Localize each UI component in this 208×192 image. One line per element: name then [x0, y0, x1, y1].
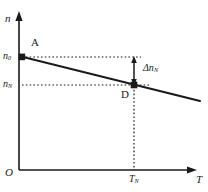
point-marker-A: [19, 54, 26, 61]
figure-canvas: n T O n0 nN TN A D ΔnN: [0, 0, 208, 192]
delta-nN-label-base: Δn: [143, 62, 154, 73]
y-axis: [15, 11, 22, 170]
y-tick-label-n0-sub: 0: [8, 54, 11, 61]
point-marker-D: [131, 82, 138, 89]
point-label-A: A: [31, 37, 39, 48]
x-axis-name: T: [196, 174, 202, 185]
y-tick-label-nN: nN: [3, 79, 12, 90]
point-label-D: D: [121, 89, 129, 100]
x-tick-label-TN-sub: N: [135, 177, 139, 184]
delta-nN-arrow: [131, 56, 137, 86]
origin-label: O: [5, 167, 13, 178]
y-axis-arrowhead: [15, 11, 22, 21]
y-tick-label-n0: n0: [3, 51, 11, 62]
diagram-svg: [0, 0, 208, 192]
y-axis-name: n: [5, 13, 11, 24]
data-line-n-of-T: [21, 57, 200, 101]
delta-nN-arrowhead-up: [131, 56, 137, 63]
x-axis: [19, 166, 197, 173]
delta-nN-label: ΔnN: [143, 63, 158, 74]
y-tick-label-nN-sub: N: [8, 82, 12, 89]
delta-nN-label-sub: N: [154, 66, 158, 73]
x-tick-label-TN: TN: [129, 174, 139, 185]
